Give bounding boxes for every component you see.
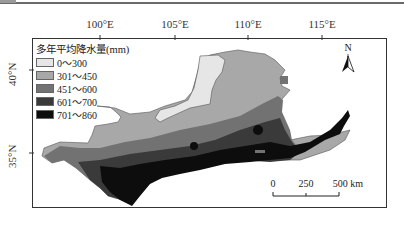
legend-swatch-601-700 [36, 97, 54, 106]
legend-swatch-701-860 [36, 110, 54, 119]
north-label: N [338, 42, 358, 53]
north-arrow: N [338, 42, 358, 76]
scale-bar-line [270, 178, 380, 202]
legend-title: 多年平均降水量(mm) [36, 41, 129, 56]
legend: 多年平均降水量(mm) 0～300 301～450 451～600 601～70… [36, 41, 129, 121]
legend-swatch-451-600 [36, 84, 54, 93]
legend-item: 701～860 [36, 108, 129, 121]
legend-swatch-0-300 [36, 58, 54, 67]
scale-bar: 0 250 500 km [270, 178, 380, 202]
legend-label: 701～860 [57, 107, 97, 122]
legend-swatch-301-450 [36, 71, 54, 80]
